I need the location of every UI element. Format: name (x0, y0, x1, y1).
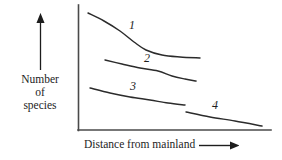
data-curves (88, 13, 262, 126)
y-axis-label: Number of species (8, 73, 72, 112)
curve-3 (90, 88, 185, 105)
chart-figure: Number of species Distance from mainland… (0, 0, 282, 160)
y-axis-label-line-2: of (8, 86, 72, 99)
curve-2 (105, 60, 196, 81)
curve-label-1: 1 (129, 19, 135, 31)
curve-label-3: 3 (130, 80, 136, 92)
x-axis-label: Distance from mainland (84, 138, 195, 151)
curve-4 (186, 112, 262, 126)
y-axis-label-line-3: species (8, 99, 72, 112)
curve-label-2: 2 (144, 52, 150, 64)
y-axis-label-line-1: Number (8, 73, 72, 86)
curve-label-4: 4 (212, 99, 218, 111)
